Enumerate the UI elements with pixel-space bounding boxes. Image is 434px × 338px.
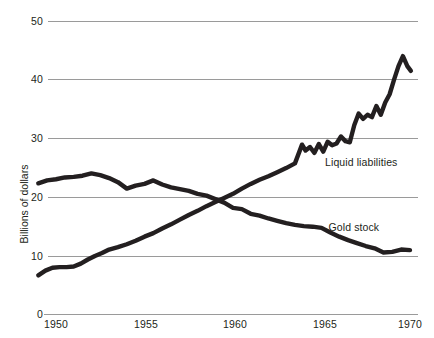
series-label-liquid-liabilities: Liquid liabilities [325,156,397,168]
series-label-gold-stock: Gold stock [329,221,380,233]
plot-area [0,0,434,338]
series-gold-stock-line [38,173,410,252]
chart-container: 50 40 30 20 10 0 1950 1955 1960 1965 197… [0,0,434,338]
